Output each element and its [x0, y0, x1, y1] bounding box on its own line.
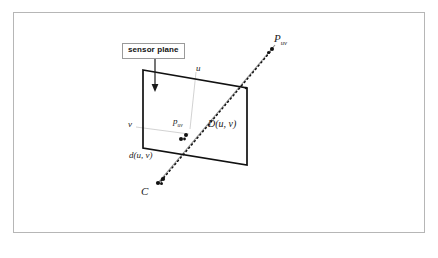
label-axis-v: v	[128, 120, 132, 129]
label-scene-point-base: P	[274, 32, 281, 44]
label-image-distance: d(u, v)	[129, 151, 153, 160]
image-point-marker	[179, 133, 188, 141]
label-image-point: puv	[173, 117, 183, 128]
label-scene-point: Puv	[274, 33, 287, 47]
callout-arrow-head	[152, 84, 159, 92]
plane-intersection-marker	[245, 87, 248, 90]
projection-ray-solid	[157, 45, 275, 184]
figure-page: sensor plane Puv C puv D(u, v) d(u, v) u…	[0, 0, 438, 258]
label-scene-distance: D(u, v)	[208, 119, 236, 129]
projection-diagram	[0, 0, 438, 258]
u-guide-line	[190, 72, 196, 129]
sensor-plane-label: sensor plane	[128, 45, 179, 54]
label-scene-point-sub: uv	[281, 39, 287, 46]
label-camera-center: C	[141, 186, 148, 197]
label-axis-u: u	[196, 64, 201, 73]
sensor-plane-callout: sensor plane	[122, 43, 185, 59]
label-image-point-sub: uv	[178, 122, 183, 128]
